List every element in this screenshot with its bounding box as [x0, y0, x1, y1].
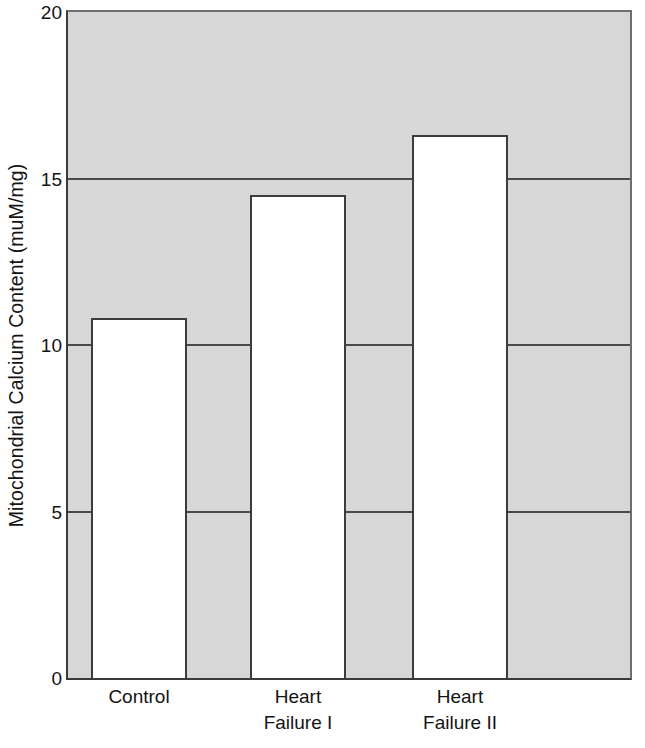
bar-chart: Mitochondrial Calcium Content (muM/mg) 0…	[0, 0, 645, 748]
bar	[91, 318, 187, 678]
gridline	[68, 178, 630, 180]
x-axis-tick-label-line1: Heart	[275, 686, 321, 707]
plot-area	[66, 10, 632, 680]
bar	[250, 195, 346, 678]
y-axis-tick-label: 5	[51, 502, 62, 521]
x-axis-tick-label-line2: Failure I	[264, 710, 333, 736]
x-axis-tick-labels: ControlHeartFailure IHeartFailure II	[66, 684, 632, 748]
x-axis-tick-label: Control	[108, 684, 169, 710]
y-axis-tick-label: 10	[41, 336, 62, 355]
x-axis-tick-label-line2: Failure II	[423, 710, 497, 736]
x-axis-tick-label-line1: Control	[108, 686, 169, 707]
bar	[412, 135, 508, 678]
x-axis-tick-label: HeartFailure I	[264, 684, 333, 736]
x-axis-tick-label-line1: Heart	[437, 686, 483, 707]
y-axis-tick-labels: 05101520	[26, 0, 62, 690]
y-axis-tick-label: 20	[41, 3, 62, 22]
y-axis-tick-label: 15	[41, 169, 62, 188]
y-axis-tick-label: 0	[51, 669, 62, 688]
x-axis-tick-label: HeartFailure II	[423, 684, 497, 736]
